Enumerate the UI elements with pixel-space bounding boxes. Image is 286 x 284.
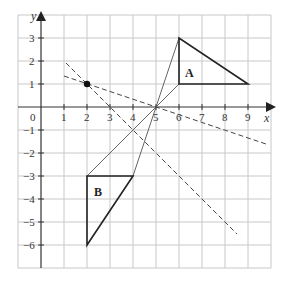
triangle-a-label: A <box>185 66 194 80</box>
x-tick-label: 9 <box>245 111 251 123</box>
dashed-line-steep <box>66 63 237 234</box>
x-tick-label: 1 <box>61 111 67 123</box>
y-tick-label: −6 <box>23 239 35 251</box>
x-tick-label: 8 <box>222 111 228 123</box>
dashed-lines <box>64 63 266 234</box>
x-tick-labels: 1 2 3 4 5 6 7 8 9 <box>61 111 251 123</box>
triangle-b-label: B <box>94 185 102 199</box>
y-tick-labels: 3 2 1 −1 −2 −3 −4 −5 −6 <box>23 32 35 251</box>
x-tick-label: 4 <box>130 111 136 123</box>
x-axis-label: x <box>263 111 270 125</box>
dashed-line-shallow <box>64 76 266 144</box>
y-tick-label: −3 <box>23 170 35 182</box>
marked-point <box>84 81 90 87</box>
coordinate-diagram: y x 0 1 2 3 4 5 6 7 8 9 3 2 1 −1 −2 −3 −… <box>0 0 286 284</box>
y-tick-label: −2 <box>23 147 35 159</box>
y-tick-label: −5 <box>23 216 35 228</box>
y-tick-label: −4 <box>23 193 35 205</box>
y-tick-label: 2 <box>29 55 35 67</box>
y-tick-label: 1 <box>29 78 35 90</box>
y-axis-label: y <box>30 9 37 23</box>
x-tick-label: 2 <box>84 111 90 123</box>
y-tick-label: 3 <box>29 32 35 44</box>
tick-marks <box>38 38 248 245</box>
origin-label: 0 <box>30 111 36 123</box>
y-tick-label: −1 <box>23 124 35 136</box>
y-axis-arrow-icon <box>36 11 46 21</box>
x-tick-label: 6 <box>176 111 182 123</box>
x-tick-label: 7 <box>199 111 205 123</box>
x-tick-label: 3 <box>107 111 113 123</box>
